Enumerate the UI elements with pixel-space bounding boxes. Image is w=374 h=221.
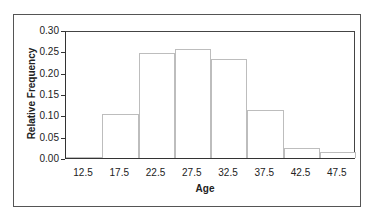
x-tick-label: 42.5 — [283, 167, 319, 178]
y-tick-mark — [61, 159, 65, 160]
x-tick-label: 12.5 — [65, 167, 101, 178]
y-tick-label: 0.25 — [27, 46, 59, 57]
x-tick-label: 37.5 — [246, 167, 282, 178]
y-tick-label: 0.15 — [27, 89, 59, 100]
histogram-bar — [139, 53, 175, 158]
x-tick-label: 27.5 — [174, 167, 210, 178]
y-tick-label: 0.05 — [27, 132, 59, 143]
x-tick-label: 32.5 — [210, 167, 246, 178]
histogram-bar — [66, 157, 102, 158]
histogram-bar — [284, 148, 320, 159]
histogram-bar — [211, 59, 247, 158]
histogram-bar — [247, 110, 283, 158]
plot-area — [65, 31, 355, 159]
x-tick-label: 17.5 — [101, 167, 137, 178]
x-axis-label: Age — [175, 183, 235, 194]
y-tick-label: 0.20 — [27, 68, 59, 79]
y-tick-label: 0.00 — [27, 153, 59, 164]
x-tick-label: 22.5 — [138, 167, 174, 178]
x-tick-label: 47.5 — [319, 167, 355, 178]
y-tick-label: 0.30 — [27, 25, 59, 36]
histogram-bar — [102, 114, 138, 158]
histogram-bar — [175, 49, 211, 158]
y-tick-label: 0.10 — [27, 110, 59, 121]
histogram-bar — [320, 152, 356, 158]
